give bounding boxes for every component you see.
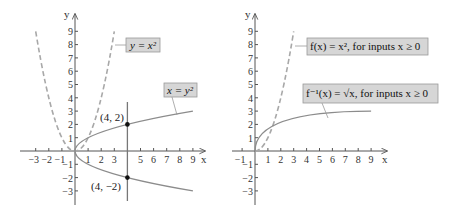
left-x-tick-labels: −3 −2 −1 1 2 3 5 6 7 8 9 (28, 154, 195, 165)
svg-text:3: 3 (248, 106, 253, 117)
svg-text:8: 8 (356, 154, 361, 165)
svg-text:−1: −1 (62, 159, 73, 170)
label-parabola: y = x² (129, 39, 157, 51)
right-sqrt-curve (255, 111, 371, 151)
svg-text:5: 5 (68, 79, 73, 90)
svg-text:5: 5 (248, 79, 253, 90)
svg-text:−2: −2 (242, 173, 253, 184)
left-graph: x y −3 −2 −1 1 2 3 5 6 7 8 9 (20, 8, 207, 205)
leader-finv (322, 103, 328, 118)
svg-text:9: 9 (68, 26, 73, 37)
left-y-axis-label: y (64, 8, 70, 20)
svg-text:9: 9 (248, 26, 253, 37)
svg-text:2: 2 (99, 154, 104, 165)
svg-text:6: 6 (68, 66, 73, 77)
point-lower-label: (4, −2) (91, 180, 121, 193)
point-upper-label: (4, 2) (100, 111, 124, 124)
right-y-tick-labels: 9 8 7 6 5 4 3 2 1 −1 −2 −3 (242, 26, 253, 197)
svg-text:4: 4 (304, 154, 309, 165)
diagram-canvas: x y −3 −2 −1 1 2 3 5 6 7 8 9 (0, 0, 462, 218)
svg-text:6: 6 (248, 66, 253, 77)
svg-text:2: 2 (68, 119, 73, 130)
svg-text:4: 4 (248, 93, 253, 104)
svg-text:8: 8 (177, 154, 182, 165)
svg-text:7: 7 (68, 53, 73, 64)
svg-text:−1: −1 (242, 159, 253, 170)
svg-text:−3: −3 (62, 186, 73, 197)
svg-text:1: 1 (265, 154, 270, 165)
svg-text:−3: −3 (28, 154, 39, 165)
right-y-axis-label: y (245, 8, 251, 20)
svg-text:7: 7 (343, 154, 348, 165)
svg-text:2: 2 (278, 154, 283, 165)
svg-text:2: 2 (248, 119, 253, 130)
svg-text:8: 8 (68, 39, 73, 50)
svg-text:9: 9 (369, 154, 374, 165)
svg-text:1: 1 (68, 133, 73, 144)
point-upper (125, 122, 130, 127)
svg-text:3: 3 (291, 154, 296, 165)
right-x-axis-label: x (382, 153, 388, 165)
svg-text:9: 9 (190, 154, 195, 165)
label-finv: f⁻¹(x) = √x, for inputs x ≥ 0 (306, 87, 429, 100)
svg-text:5: 5 (138, 154, 143, 165)
svg-text:6: 6 (330, 154, 335, 165)
svg-text:1: 1 (248, 133, 253, 144)
label-sideways: x = y² (166, 84, 194, 96)
svg-text:4: 4 (68, 93, 73, 104)
left-x-axis-label: x (201, 153, 207, 165)
svg-text:−2: −2 (62, 173, 73, 184)
svg-text:3: 3 (68, 106, 73, 117)
right-graph: x y −1 1 2 3 4 5 6 7 8 9 (232, 8, 438, 205)
point-lower (125, 175, 130, 180)
svg-text:3: 3 (112, 154, 117, 165)
svg-text:7: 7 (164, 154, 169, 165)
svg-text:6: 6 (151, 154, 156, 165)
svg-text:−2: −2 (41, 154, 52, 165)
svg-text:8: 8 (248, 39, 253, 50)
leader-sideways (172, 97, 177, 115)
left-y-tick-labels: 9 8 7 6 5 4 3 2 1 −1 −2 −3 (62, 26, 73, 197)
svg-text:7: 7 (248, 53, 253, 64)
right-f-dashed (255, 31, 294, 151)
label-f: f(x) = x², for inputs x ≥ 0 (310, 40, 421, 53)
svg-text:5: 5 (317, 154, 322, 165)
right-x-tick-labels: −1 1 2 3 4 5 6 7 8 9 (235, 154, 374, 165)
svg-text:−3: −3 (242, 186, 253, 197)
